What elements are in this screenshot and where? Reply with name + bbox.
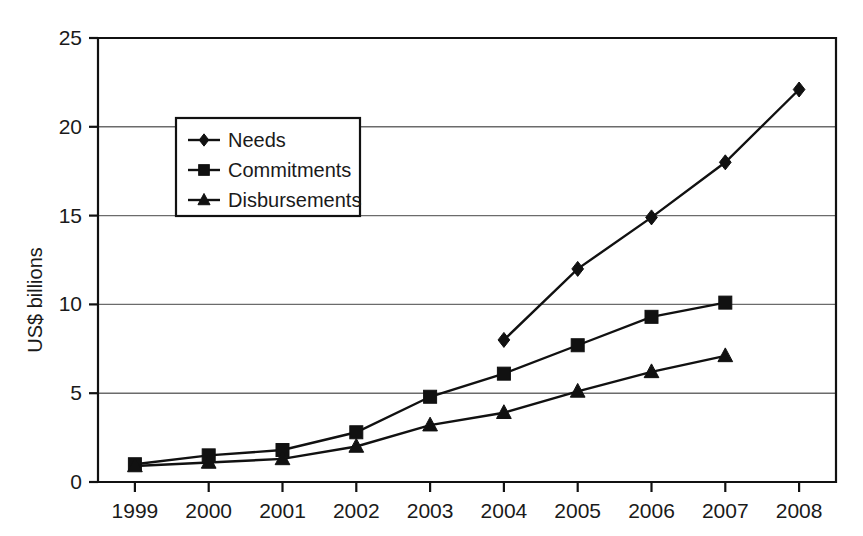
y-tick-label: 10 <box>59 292 82 315</box>
y-tick-label: 25 <box>59 26 82 49</box>
x-tick-label: 2002 <box>333 499 380 522</box>
legend-label-disbursements: Disbursements <box>228 189 361 211</box>
x-tick-label: 2000 <box>185 499 232 522</box>
legend-label-commitments: Commitments <box>228 159 351 181</box>
chart-container: 0510152025 19992000200120022003200420052… <box>0 0 863 536</box>
marker-square <box>645 310 658 323</box>
x-tick-label: 2008 <box>776 499 823 522</box>
x-tick-label: 2003 <box>407 499 454 522</box>
x-tick-label: 2005 <box>554 499 601 522</box>
y-tick-label: 5 <box>70 381 82 404</box>
marker-square <box>350 426 363 439</box>
x-tick-label: 2007 <box>702 499 749 522</box>
marker-square <box>424 390 437 403</box>
marker-square <box>497 367 510 380</box>
y-tick-label: 0 <box>70 470 82 493</box>
x-tick-label: 1999 <box>112 499 159 522</box>
legend-label-needs: Needs <box>228 129 286 151</box>
x-tick-label: 2006 <box>628 499 675 522</box>
x-tick-label: 2004 <box>481 499 528 522</box>
y-tick-label: 20 <box>59 115 82 138</box>
x-tick-label: 2001 <box>259 499 306 522</box>
chart-background <box>0 0 863 536</box>
chart-legend: NeedsCommitmentsDisbursements <box>176 118 361 216</box>
line-chart: 0510152025 19992000200120022003200420052… <box>0 0 863 536</box>
marker-square <box>719 296 732 309</box>
y-axis-title: US$ billions <box>24 247 46 353</box>
y-tick-label: 15 <box>59 204 82 227</box>
marker-square <box>571 339 584 352</box>
marker-square <box>199 165 210 176</box>
